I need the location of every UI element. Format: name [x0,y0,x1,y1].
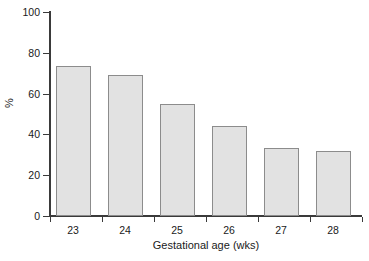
x-tick-mark [102,217,103,222]
x-tick-mark [206,217,207,222]
bar [56,66,91,216]
x-tick-label: 23 [53,224,93,236]
y-tick-mark [43,175,49,176]
y-tick-label: 20 [4,170,40,180]
y-tick-label: 100 [4,7,40,17]
y-tick-mark [43,12,49,13]
y-tick-mark [43,134,49,135]
y-tick-label: 0 [4,211,40,221]
bar [316,151,351,216]
y-tick-label: 40 [4,129,40,139]
y-tick-mark [43,94,49,95]
x-tick-mark [154,217,155,222]
y-axis-title: % [4,98,15,108]
bar [264,148,299,216]
x-tick-label: 26 [209,224,249,236]
bar-chart: 020406080100 % 232425262728 Gestational … [0,0,369,261]
x-tick-label: 28 [313,224,353,236]
y-tick-mark [43,53,49,54]
x-tick-mark [50,217,51,222]
bar [212,126,247,216]
x-axis-title: Gestational age (wks) [50,239,362,252]
x-tick-label: 25 [157,224,197,236]
x-tick-mark [310,217,311,222]
bar [160,104,195,216]
x-tick-mark [258,217,259,222]
plot-area [50,12,362,216]
bar [108,75,143,216]
y-tick-label: 80 [4,48,40,58]
x-tick-mark [362,217,363,222]
x-tick-label: 27 [261,224,301,236]
y-tick-mark [43,216,49,217]
x-tick-label: 24 [105,224,145,236]
